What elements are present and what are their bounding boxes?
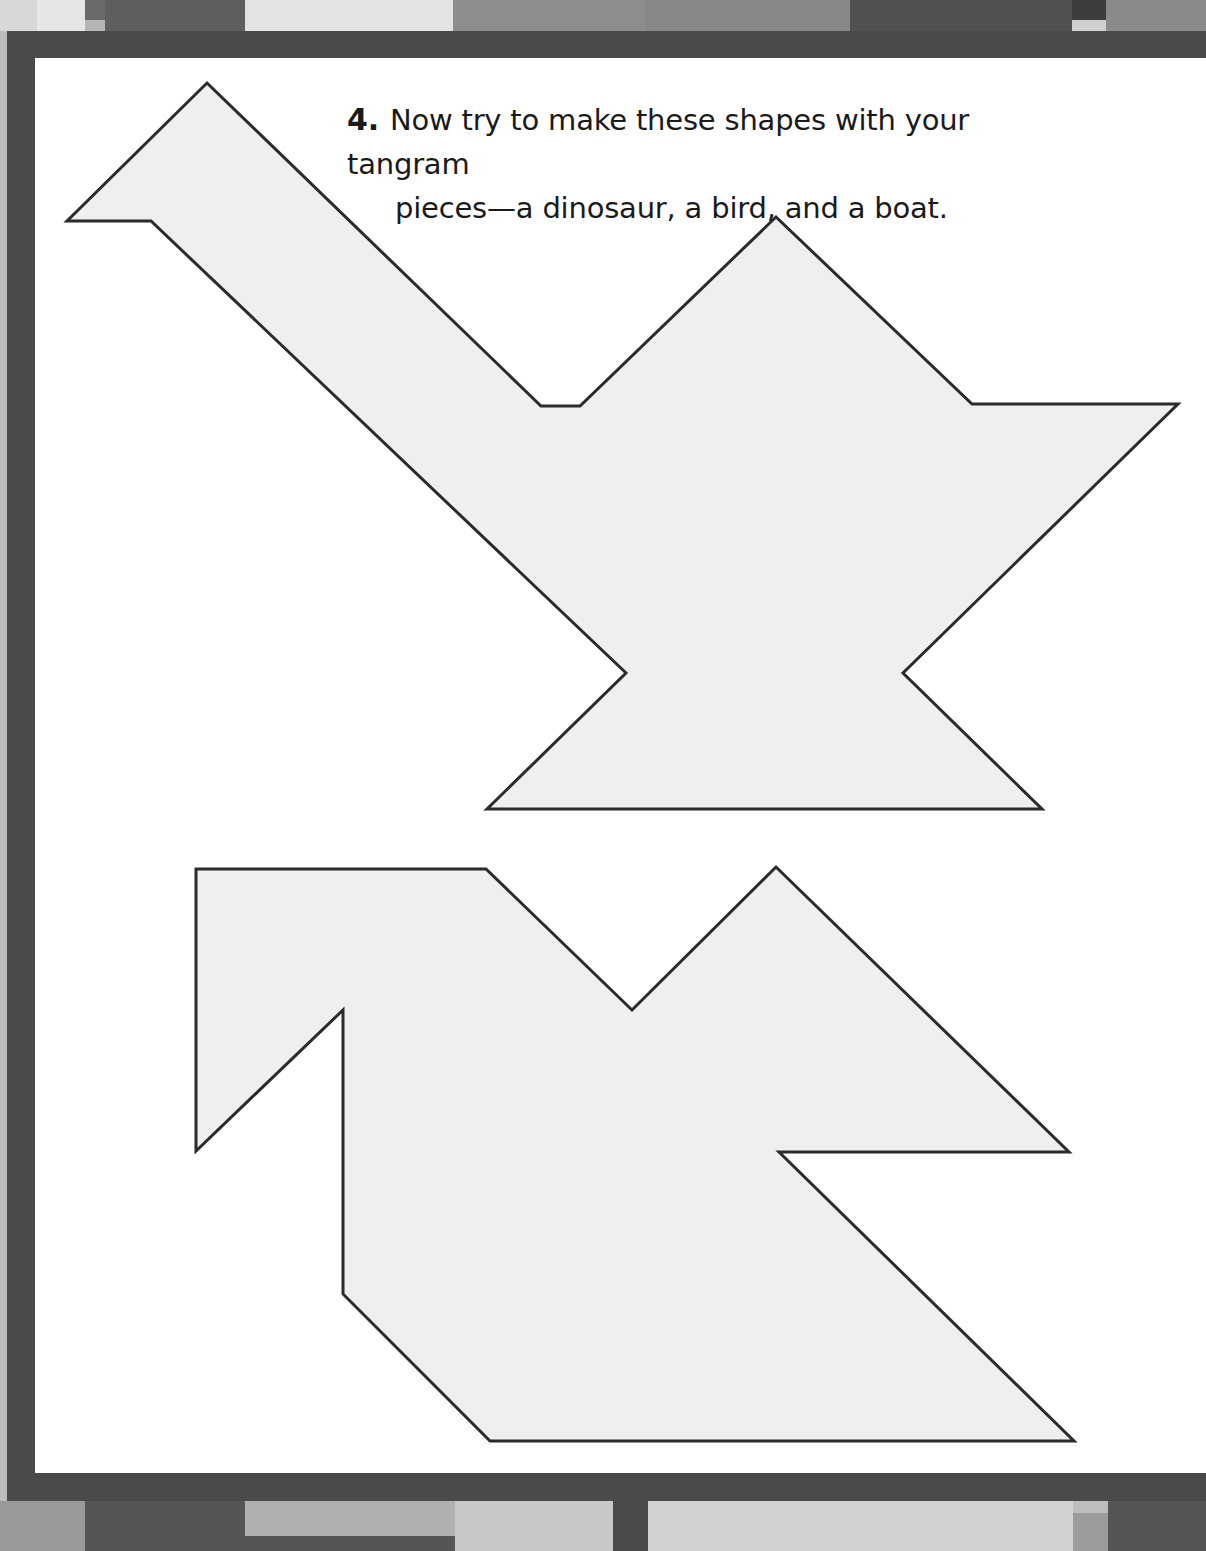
- bird-silhouette: [196, 867, 1074, 1441]
- tangram-shapes: [0, 0, 1206, 1551]
- instruction-text: 4. Now try to make these shapes with you…: [347, 98, 1067, 230]
- instruction-line-2: pieces—a dinosaur, a bird, and a boat.: [347, 186, 1067, 230]
- instruction-line-1: Now try to make these shapes with your t…: [347, 103, 969, 181]
- step-number: 4.: [347, 98, 379, 142]
